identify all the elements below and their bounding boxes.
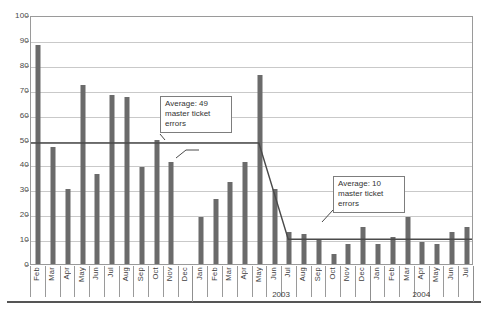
average-reference-lines (31, 17, 472, 264)
x-axis-month-label: Jun (92, 267, 100, 280)
x-axis-month-label: Apr (63, 267, 71, 280)
average-10-callout: Average: 10 master ticket errors (333, 176, 405, 213)
master-ticket-errors-chart: 1009080706050403020100 Average: 49 maste… (0, 0, 488, 317)
y-tick-mark-30 (25, 190, 29, 191)
x-axis-month-label: Dec (181, 267, 189, 281)
x-axis-month-label: Feb (211, 267, 219, 281)
x-axis-month-label: Aug (299, 267, 307, 281)
x-axis-month-label: Dec (358, 267, 366, 281)
x-axis-month-label: Mar (225, 267, 233, 281)
x-axis-month-label: Jun (447, 267, 455, 280)
y-tick-mark-20 (25, 215, 29, 216)
x-axis-month-label: Apr (240, 267, 248, 280)
y-tick-mark-100 (25, 16, 29, 17)
y-tick-mark-60 (25, 116, 29, 117)
x-axis-month-label: Apr (417, 267, 425, 280)
x-axis-month-label: Mar (48, 267, 56, 281)
x-axis-month-label: May (255, 267, 263, 282)
year-label-2004: 2004 (401, 290, 441, 299)
year-divider (370, 266, 371, 302)
x-axis-month-label: Oct (152, 267, 160, 280)
year-divider-end (473, 266, 474, 302)
y-tick-mark-10 (25, 240, 29, 241)
x-axis-month-label: Jul (284, 267, 292, 278)
y-tick-mark-0 (25, 265, 29, 266)
average-step-line (31, 143, 472, 239)
x-axis-month-label: May (78, 267, 86, 282)
x-axis-month-label: Sep (137, 267, 145, 281)
x-axis-month-label: Jul (107, 267, 115, 278)
x-axis-month-label: Mar (403, 267, 411, 281)
x-axis-month-label: May (432, 267, 440, 282)
y-tick-mark-90 (25, 41, 29, 42)
x-axis-month-label: Aug (122, 267, 130, 281)
x-axis-month-label: Jul (462, 267, 470, 278)
y-tick-mark-40 (25, 165, 29, 166)
year-label-2003: 2003 (261, 290, 301, 299)
x-axis-month-label: Sep (314, 267, 322, 281)
y-tick-mark-80 (25, 66, 29, 67)
plot-area (30, 16, 473, 265)
x-axis-month-label: Jan (373, 267, 381, 280)
x-axis-month-label: Jan (196, 267, 204, 280)
x-axis-month-label: Nov (166, 267, 174, 281)
x-axis-month-label: Nov (343, 267, 351, 281)
x-axis-year-band: 20032004 (30, 288, 473, 302)
x-axis-month-label: Oct (329, 267, 337, 280)
y-axis: 1009080706050403020100 (0, 16, 29, 265)
x-axis-month-label: Feb (388, 267, 396, 281)
y-tick-mark-70 (25, 91, 29, 92)
average-49-callout: Average: 49 master ticket errors (160, 96, 232, 133)
x-axis-month-label: Feb (33, 267, 41, 281)
y-tick-mark-50 (25, 141, 29, 142)
x-axis-month-label: Jun (270, 267, 278, 280)
year-divider (192, 266, 193, 302)
